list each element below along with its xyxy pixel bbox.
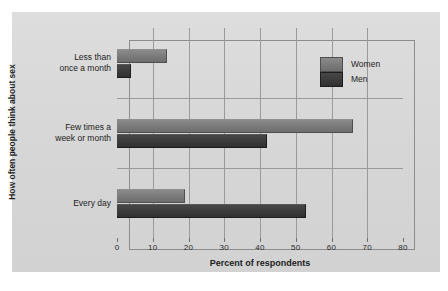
x-tick-mark <box>367 238 368 242</box>
gridline-horizontal <box>117 168 403 169</box>
bar-women-2 <box>117 189 185 203</box>
y-axis-title: How often people think about sex <box>7 42 17 222</box>
gridline-horizontal <box>117 98 403 99</box>
x-axis-title: Percent of respondents <box>117 258 403 268</box>
bar-men-0 <box>117 64 131 78</box>
bar-men-2 <box>117 204 306 218</box>
chart-panel: Less thanonce a monthFew times aweek or … <box>12 12 440 272</box>
x-tick-mark <box>296 238 297 242</box>
x-tick-label: 70 <box>352 243 382 252</box>
x-tick-mark <box>403 238 404 242</box>
x-tick-mark <box>224 238 225 242</box>
x-tick-label: 50 <box>281 243 311 252</box>
legend-swatch-women <box>320 57 343 72</box>
x-tick-mark <box>153 238 154 242</box>
x-tick-mark <box>260 238 261 242</box>
x-tick-label: 20 <box>174 243 204 252</box>
legend-label-men: Men <box>351 74 368 84</box>
chart-figure: Less thanonce a monthFew times aweek or … <box>0 0 448 291</box>
x-tick-label: 0 <box>102 243 132 252</box>
bar-women-1 <box>117 119 353 133</box>
x-tick-mark <box>332 238 333 242</box>
x-tick-label: 10 <box>138 243 168 252</box>
x-tick-label: 60 <box>317 243 347 252</box>
legend-label-women: Women <box>351 59 380 69</box>
x-tick-mark <box>189 238 190 242</box>
legend-swatch-men <box>320 72 343 87</box>
bar-women-0 <box>117 49 167 63</box>
x-tick-label: 80 <box>388 243 418 252</box>
bar-men-1 <box>117 134 267 148</box>
x-tick-label: 30 <box>209 243 239 252</box>
x-tick-mark <box>117 238 118 242</box>
x-tick-label: 40 <box>245 243 275 252</box>
